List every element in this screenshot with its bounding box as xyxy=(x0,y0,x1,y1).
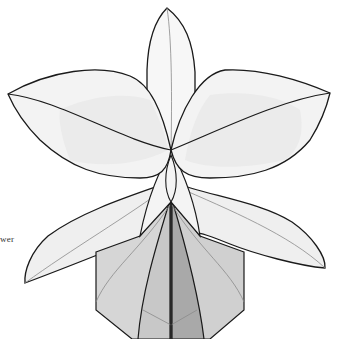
orchid-illustration xyxy=(0,0,338,339)
orchid-diagram: wer xyxy=(0,0,338,339)
